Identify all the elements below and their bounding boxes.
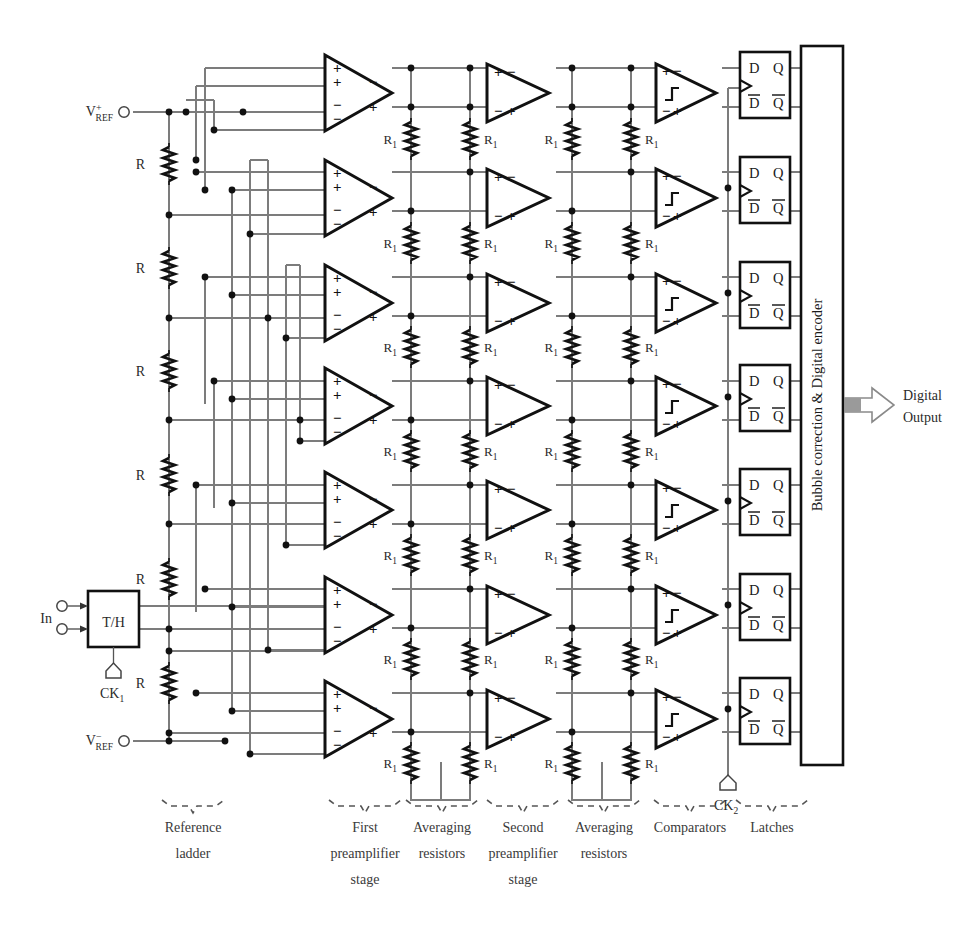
junction-dot <box>265 315 272 322</box>
preamp2-output-sign: + <box>507 208 516 224</box>
junction-dot <box>240 109 247 116</box>
comparator-output-sign: + <box>673 729 682 745</box>
preamp1-input-sign: + <box>333 284 342 300</box>
vref-minus-terminal[interactable] <box>119 736 129 746</box>
junction-dot <box>283 335 290 342</box>
section-label-first-preamplifier-stage: stage <box>351 872 380 887</box>
junction-dot <box>202 586 209 593</box>
junction-dot <box>193 169 200 176</box>
latch-pin-q: Q <box>773 373 784 389</box>
junction-dot <box>467 274 474 281</box>
junction-dot <box>569 313 576 320</box>
junction-dot <box>467 378 474 385</box>
preamp1-output-sign: + <box>369 621 378 637</box>
comparator-output-sign: − <box>662 208 671 224</box>
preamp1-output-sign: − <box>369 179 378 195</box>
junction-dot <box>166 212 173 219</box>
comparator-input-sign: + <box>662 376 671 392</box>
latch-6[interactable]: DQDQ <box>740 574 790 640</box>
comparator-input-sign: + <box>662 480 671 496</box>
latch-7[interactable]: DQDQ <box>740 678 790 744</box>
junction-dot <box>569 208 576 215</box>
latch-pin-dbar: D <box>749 721 759 737</box>
junction-dot <box>628 482 635 489</box>
preamp1-input-sign: − <box>333 737 342 753</box>
track-hold-label: T/H <box>102 615 125 630</box>
junction-dot <box>202 274 209 281</box>
comparator-input-sign: − <box>673 273 682 289</box>
junction-dot <box>408 104 415 111</box>
preamp1-output-sign: − <box>369 700 378 716</box>
junction-dot <box>247 231 254 238</box>
junction-dot <box>229 708 236 715</box>
junction-dot <box>193 482 200 489</box>
comparator-output-sign: − <box>662 625 671 641</box>
input-terminal-positive[interactable] <box>57 601 67 611</box>
latch-pin-q: Q <box>773 477 784 493</box>
preamp1-output-sign: − <box>369 491 378 507</box>
digital-output-line2: Output <box>903 410 942 425</box>
latch-5[interactable]: DQDQ <box>740 469 790 535</box>
section-label-averaging-resistors-2: resistors <box>581 846 628 861</box>
junction-dot <box>166 730 173 737</box>
junction-dot <box>628 65 635 72</box>
comparator-output-sign: + <box>673 520 682 536</box>
input-terminal-negative[interactable] <box>57 624 67 634</box>
section-label-averaging-resistors-2: Averaging <box>575 820 633 835</box>
junction-dot <box>247 751 254 758</box>
preamp1-output-sign: + <box>369 516 378 532</box>
preamp1-input-sign: − <box>333 321 342 337</box>
junction-dot <box>183 109 190 116</box>
latch-1[interactable]: DQDQ <box>740 52 790 118</box>
comparator-output-sign: − <box>662 416 671 432</box>
preamp2-input-sign: − <box>507 274 516 290</box>
latch-2[interactable]: DQDQ <box>740 157 790 223</box>
section-label-first-preamplifier-stage: First <box>352 820 378 835</box>
junction-dot <box>408 417 415 424</box>
bubble-correction-digital-encoder[interactable]: Bubble correction & Digital encoder <box>801 46 843 765</box>
latch-pin-dbar: D <box>749 95 759 111</box>
latch-4[interactable]: DQDQ <box>740 365 790 431</box>
junction-dot <box>229 604 236 611</box>
latch-pin-qbar: Q <box>773 408 784 424</box>
comparator-output-sign: − <box>662 103 671 119</box>
junction-dot <box>628 690 635 697</box>
encoder-label: Bubble correction & Digital encoder <box>809 299 825 512</box>
junction-dot <box>229 292 236 299</box>
preamp2-output-sign: + <box>507 103 516 119</box>
junction-dot <box>467 65 474 72</box>
preamp2-input-sign: − <box>507 169 516 185</box>
preamp2-input-sign: + <box>494 274 503 290</box>
junction-dot <box>229 500 236 507</box>
junction-dot <box>193 157 200 164</box>
latch-bank: DQDQDQDQDQDQDQDQDQDQDQDQDQDQ <box>740 52 790 744</box>
junction-dot <box>166 109 173 116</box>
preamp1-output-sign: + <box>369 309 378 325</box>
comparator-input-sign: + <box>662 273 671 289</box>
junction-dot <box>467 482 474 489</box>
latch-3[interactable]: DQDQ <box>740 262 790 328</box>
preamp2-output-sign: + <box>507 729 516 745</box>
latch-pin-q: Q <box>773 270 784 286</box>
junction-dot <box>725 185 732 192</box>
vref-plus-terminal[interactable] <box>119 107 129 117</box>
junction-dot <box>265 647 272 654</box>
preamp2-output-sign: − <box>494 625 503 641</box>
latch-pin-qbar: Q <box>773 200 784 216</box>
junction-dot <box>628 104 635 111</box>
preamp2-output-sign: − <box>494 313 503 329</box>
section-label-first-preamplifier-stage: preamplifier <box>330 846 400 861</box>
preamp1-input-sign: − <box>333 111 342 127</box>
preamp1-input-sign: + <box>333 596 342 612</box>
latch-pin-dbar: D <box>749 200 759 216</box>
preamp2-output-sign: + <box>507 625 516 641</box>
section-label-reference-ladder: Reference <box>165 820 222 835</box>
comparator-input-sign: − <box>673 63 682 79</box>
junction-dot <box>211 378 218 385</box>
preamp2-input-sign: − <box>507 481 516 497</box>
comparator-output-sign: + <box>673 313 682 329</box>
latch-pin-q: Q <box>773 165 784 181</box>
preamp1-input-sign: + <box>333 387 342 403</box>
preamp1-input-sign: − <box>333 216 342 232</box>
preamp2-output-sign: + <box>507 520 516 536</box>
